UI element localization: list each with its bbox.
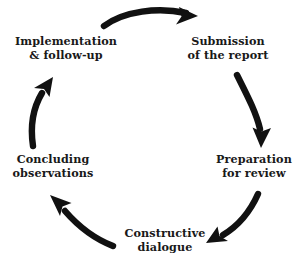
node-label-preparation: Preparation for review bbox=[206, 152, 302, 181]
arrow-left bbox=[32, 77, 53, 146]
cycle-diagram: Submission of the report Preparation for… bbox=[0, 0, 303, 272]
node-label-submission: Submission of the report bbox=[176, 34, 280, 63]
arrow-top bbox=[104, 7, 198, 26]
node-label-concluding: Concluding observations bbox=[1, 152, 105, 181]
node-label-implementation: Implementation & follow-up bbox=[8, 34, 124, 63]
arrow-bottom-left bbox=[50, 195, 113, 246]
node-label-constructive: Constructive dialogue bbox=[112, 226, 218, 255]
arrow-right-upper bbox=[237, 75, 271, 148]
